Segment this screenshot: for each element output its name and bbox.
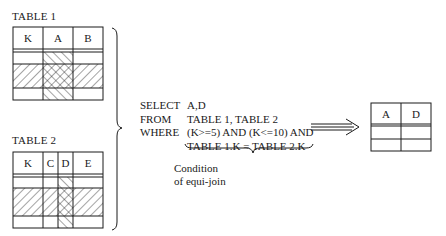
- table-2-col-c: C: [43, 157, 58, 169]
- where-continuation: TABLE 1.K = TABLE 2.K: [140, 140, 314, 154]
- table-2-col-k: K: [13, 157, 43, 169]
- result-col-a: A: [371, 108, 401, 120]
- join-condition: TABLE 1.K = TABLE 2.K: [187, 140, 306, 152]
- select-keyword: SELECT: [140, 99, 187, 113]
- table-2-title: TABLE 2: [12, 134, 56, 146]
- where-keyword: WHERE: [140, 126, 187, 140]
- from-line: FROMTABLE 1, TABLE 2: [140, 113, 314, 127]
- select-value: A,D: [187, 99, 206, 111]
- sql-query: SELECTA,D FROMTABLE 1, TABLE 2 WHERE(K>=…: [140, 99, 314, 153]
- table-2-col-d: D: [58, 157, 73, 169]
- table-1-col-k: K: [13, 32, 43, 44]
- table-1-col-b: B: [73, 32, 103, 44]
- from-keyword: FROM: [140, 113, 187, 127]
- from-value: TABLE 1, TABLE 2: [187, 113, 278, 125]
- right-brace: [112, 28, 122, 230]
- where-value: (K>=5) AND (K<=10) AND: [187, 126, 314, 138]
- join-caption: Condition of equi-join: [174, 162, 226, 188]
- result-col-d: D: [401, 108, 431, 120]
- select-line: SELECTA,D: [140, 99, 314, 113]
- caption-line-1: Condition: [174, 162, 226, 175]
- caption-line-2: of equi-join: [174, 175, 226, 188]
- where-line: WHERE(K>=5) AND (K<=10) AND: [140, 126, 314, 140]
- table-1-col-a: A: [43, 32, 73, 44]
- table-1-title: TABLE 1: [12, 10, 56, 22]
- table-2-col-e: E: [73, 157, 103, 169]
- double-arrow-icon: [311, 119, 359, 135]
